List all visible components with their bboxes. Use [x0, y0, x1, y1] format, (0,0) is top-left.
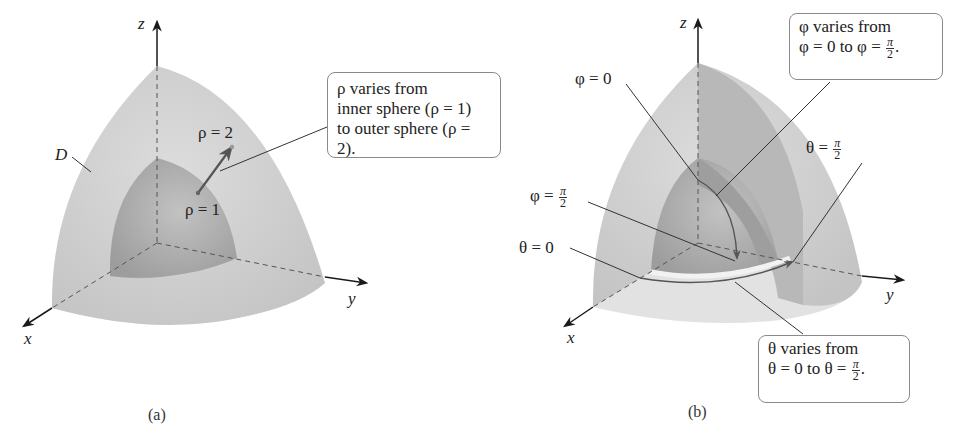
region-d-label: D [55, 146, 67, 164]
theta-half-pi-prefix: θ = [806, 138, 828, 157]
theta-callout: θ varies from θ = 0 to θ = π2. [758, 335, 910, 403]
x-axis-a [24, 308, 52, 326]
pi-over-2-fraction: π2 [886, 37, 894, 60]
rho-callout-line1: ρ varies from [337, 79, 492, 99]
x-axis-b [565, 307, 593, 326]
z-axis-label-a: z [138, 15, 145, 33]
rho-callout: ρ varies from inner sphere (ρ = 1) to ou… [327, 72, 501, 158]
pi-over-2-fraction: π2 [833, 138, 841, 161]
y-axis-label-a: y [348, 290, 356, 308]
rho-outer-label: ρ = 2 [198, 124, 233, 142]
y-axis-a [325, 277, 366, 283]
theta-half-pi-label: θ = π2 [806, 138, 842, 161]
pi-over-2-fraction: π2 [852, 359, 860, 382]
x-axis-label-a: x [24, 330, 32, 348]
phi-callout-line1: φ varies from [799, 17, 934, 37]
phi-half-pi-label: φ = π2 [530, 186, 568, 209]
caption-a: (a) [148, 406, 166, 424]
x-axis-label-b: x [567, 329, 575, 347]
panel-a-drawing [24, 22, 366, 326]
theta-callout-line2: θ = 0 to θ = π2. [768, 359, 901, 382]
rho-callout-line2: inner sphere (ρ = 1) [337, 99, 492, 119]
phi-callout: φ varies from φ = 0 to φ = π2. [789, 13, 943, 80]
pi-over-2-fraction: π2 [559, 186, 567, 209]
theta-callout-line1: θ varies from [768, 339, 901, 359]
caption-b: (b) [688, 403, 707, 421]
y-axis-b [862, 276, 903, 280]
theta-zero-label: θ = 0 [519, 239, 554, 257]
phi-callout-line2: φ = 0 to φ = π2. [799, 37, 934, 60]
rho-callout-line3: to outer sphere (ρ = 2). [337, 119, 492, 159]
z-axis-label-b: z [680, 14, 687, 32]
phi-zero-label: φ = 0 [575, 70, 611, 88]
rho-inner-label: ρ = 1 [185, 201, 220, 219]
phi-half-pi-prefix: φ = [530, 186, 554, 205]
y-axis-label-b: y [886, 286, 894, 304]
